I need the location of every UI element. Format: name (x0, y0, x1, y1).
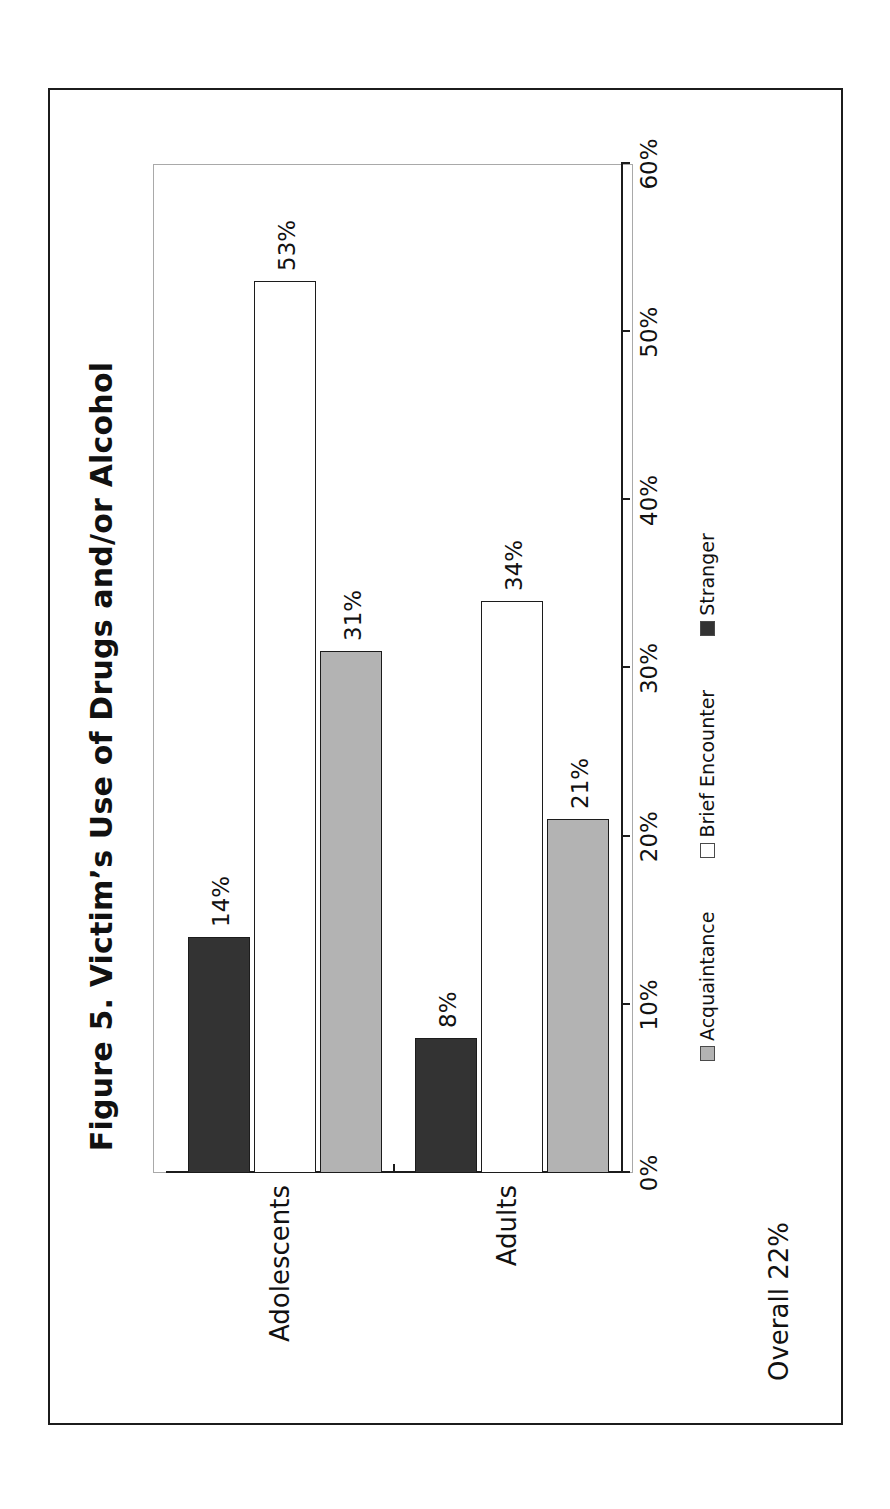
bar-adolescents-brief-encounter[interactable] (254, 281, 316, 1173)
value-tick-0 (621, 1171, 630, 1173)
bar-label-adolescents-stranger: 14% (210, 876, 233, 927)
bar-adults-acquaintance[interactable] (547, 819, 609, 1173)
bar-label-adolescents-brief-encounter: 53% (276, 220, 299, 271)
value-tick-50 (621, 330, 630, 332)
legend-item-stranger[interactable]: Stranger (696, 533, 718, 636)
legend-label-brief-encounter: Brief Encounter (696, 690, 718, 838)
value-tick-label-10: 10% (636, 979, 662, 1030)
page-title: Figure 5. Victim’s Use of Drugs and/or A… (84, 88, 119, 1425)
overall-footnote: Overall 22% (764, 1222, 794, 1381)
figure-canvas: Figure 5. Victim’s Use of Drugs and/or A… (48, 88, 843, 1425)
chart-legend: Acquaintance Brief Encounter Stranger (696, 164, 718, 1173)
legend-label-stranger: Stranger (696, 533, 718, 616)
bar-adults-stranger[interactable] (415, 1038, 477, 1173)
bar-label-adults-brief-encounter: 34% (503, 540, 526, 591)
value-tick-10 (621, 1003, 630, 1005)
bar-label-adults-acquaintance: 21% (569, 758, 592, 809)
category-label-adolescents: Adolescents (265, 1185, 295, 1425)
bar-label-adolescents-acquaintance: 31% (342, 590, 365, 641)
bar-adolescents-stranger[interactable] (188, 937, 250, 1173)
category-label-adults: Adults (492, 1185, 522, 1425)
value-tick-60 (621, 162, 630, 164)
legend-item-acquaintance[interactable]: Acquaintance (696, 912, 718, 1061)
value-tick-20 (621, 835, 630, 837)
value-tick-40 (621, 498, 630, 500)
value-tick-label-60: 60% (636, 138, 662, 189)
bar-adolescents-acquaintance[interactable] (320, 651, 382, 1173)
value-tick-label-0: 0% (636, 1155, 662, 1192)
legend-item-brief-encounter[interactable]: Brief Encounter (696, 690, 718, 858)
category-separator-tick (393, 1164, 395, 1173)
legend-swatch-stranger-icon (700, 621, 715, 636)
value-tick-label-50: 50% (636, 307, 662, 358)
legend-swatch-acquaintance-icon (700, 1046, 715, 1061)
bar-adults-brief-encounter[interactable] (481, 601, 543, 1173)
value-tick-label-40: 40% (636, 475, 662, 526)
rotated-figure-wrapper: Figure 5. Victim’s Use of Drugs and/or A… (48, 88, 843, 1425)
legend-swatch-brief-encounter-icon (700, 843, 715, 858)
value-tick-30 (621, 667, 630, 669)
bar-label-adults-stranger: 8% (437, 992, 460, 1029)
legend-label-acquaintance: Acquaintance (696, 912, 718, 1041)
value-tick-label-20: 20% (636, 811, 662, 862)
value-tick-label-30: 30% (636, 643, 662, 694)
category-axis-line (621, 164, 623, 1173)
